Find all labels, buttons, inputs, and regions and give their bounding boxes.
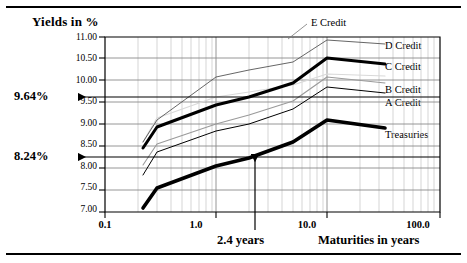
plot-frame xyxy=(105,37,440,212)
series-line-c-credit xyxy=(143,58,385,148)
major-gridlines xyxy=(105,37,440,212)
chart-figure: Yields in % Maturities in years 9.64% 8.… xyxy=(0,0,467,263)
series-line-treasuries xyxy=(143,120,385,208)
annotation-arrows xyxy=(79,97,440,230)
chart-canvas xyxy=(0,0,467,263)
series-line-a-credit xyxy=(143,87,385,175)
axis-ticks xyxy=(99,37,440,218)
series-line-e-credit xyxy=(143,74,385,142)
